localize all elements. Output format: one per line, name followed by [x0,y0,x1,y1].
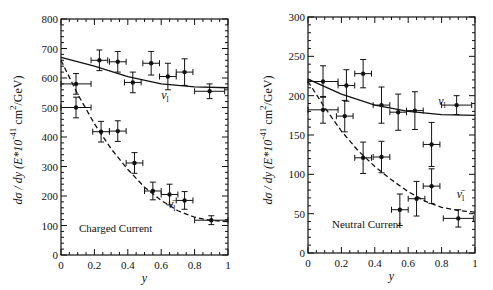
panel-annotation: Neutral Current [332,218,401,230]
y-tick-label: 100 [42,220,59,232]
data-point [160,63,177,90]
x-tick-label: 0.8 [435,257,449,269]
figure: 00.20.40.60.810100200300400500600700800y… [0,0,493,290]
y-tick-label: 250 [289,50,306,62]
plot-frame [61,19,228,255]
x-tick-label: 0.2 [88,259,102,271]
charged-current-panel: 00.20.40.60.810100200300400500600700800y… [8,13,231,285]
y-tick-label: 300 [289,11,306,23]
y-tick-label: 0 [300,247,306,259]
y-tick-label: 800 [42,13,59,25]
curve-label: νl [438,94,446,110]
data-point [109,121,126,142]
y-tick-label: 200 [289,90,306,102]
y-tick-label: 100 [289,168,306,180]
y-tick-label: 200 [42,190,59,202]
data-point [423,169,440,204]
data-point [336,100,353,131]
data-point [442,96,472,115]
data-point [338,70,355,101]
data-point [355,142,372,173]
neutral-current-panel: 00.20.40.60.81050100150200250300ydσ / dy… [258,11,478,283]
data-point [124,72,141,93]
x-tick-label: 0.8 [188,259,202,271]
x-axis-label: y [388,269,395,283]
data-point [143,51,160,75]
data-point [373,141,390,172]
panel-annotation: Charged Current [79,222,152,234]
x-tick-label: 0 [58,259,64,271]
data-point [407,92,424,130]
data-point [390,94,407,130]
data-point [308,96,338,123]
antineutrino-model-curve [61,60,228,221]
x-tick-label: 0 [305,257,311,269]
y-tick-label: 0 [53,249,59,261]
curve-label: ν̄l [457,187,465,203]
data-point [195,84,225,99]
curve-label: ν̄l [168,197,176,213]
y-tick-label: 600 [42,72,59,84]
y-tick-label: 300 [42,161,59,173]
data-point [408,181,425,216]
x-tick-label: 1 [225,259,231,271]
y-axis-label: dσ / dy (E*10-41 cm2/GeV) [258,75,275,204]
data-point [355,59,372,87]
y-axis-label: dσ / dy (E*10-41 cm2/GeV) [8,75,25,204]
neutrino-model-curve [61,57,228,87]
data-point [109,51,126,72]
data-point [443,210,473,227]
x-tick-label: 0.6 [401,257,415,269]
x-tick-label: 0.4 [121,259,135,271]
x-tick-label: 0.6 [154,259,168,271]
y-tick-label: 500 [42,102,59,114]
y-tick-label: 400 [42,131,59,143]
data-point [145,182,162,200]
data-point [176,59,193,86]
y-tick-label: 150 [289,129,306,141]
data-point [423,122,440,166]
x-tick-label: 0.4 [368,257,382,269]
x-tick-label: 0.2 [335,257,349,269]
y-tick-label: 50 [294,208,306,220]
x-tick-label: 1 [472,257,478,269]
y-tick-label: 700 [42,43,59,55]
data-point [176,192,193,210]
antineutrino-model-curve [308,82,475,213]
x-axis-label: y [141,271,148,285]
data-point [61,97,91,118]
